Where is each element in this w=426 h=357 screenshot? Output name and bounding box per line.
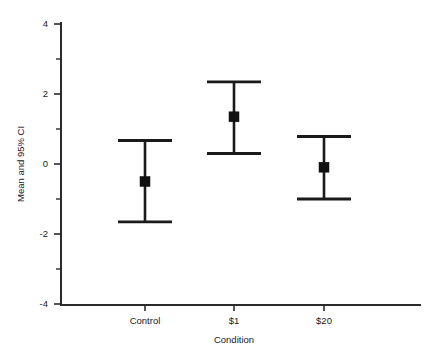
- error-bar-dollar1: [207, 82, 261, 154]
- y-axis-title: Mean and 95% CI: [15, 126, 26, 202]
- mean-marker: [319, 162, 329, 172]
- chart-canvas: 4 2 0 -2 -4 Mean and 95% CI Control $1 $…: [0, 0, 426, 357]
- y-tick-label-0: 0: [43, 158, 48, 169]
- x-tick-label-dollar1: $1: [229, 315, 240, 326]
- error-bar-chart: 4 2 0 -2 -4 Mean and 95% CI Control $1 $…: [0, 0, 426, 357]
- y-tick-label-4: 4: [43, 18, 48, 29]
- mean-marker: [140, 177, 150, 187]
- x-axis-title: Condition: [214, 334, 254, 345]
- y-tick-label-neg2: -2: [40, 228, 48, 239]
- y-tick-label-2: 2: [43, 88, 48, 99]
- error-bar-control: [118, 141, 172, 222]
- x-tick-label-control: Control: [130, 315, 161, 326]
- error-bar-dollar20: [297, 137, 351, 200]
- x-tick-label-dollar20: $20: [316, 315, 332, 326]
- y-tick-label-neg4: -4: [40, 298, 48, 309]
- mean-marker: [229, 112, 239, 122]
